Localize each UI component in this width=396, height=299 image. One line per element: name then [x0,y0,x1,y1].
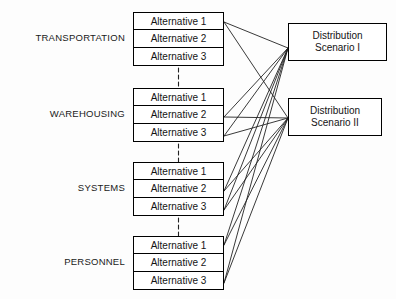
link-p1-s2 [224,118,288,245]
link-y3-s2 [224,118,288,210]
link-t1-s2 [224,22,288,118]
alt-group-personnel: Alternative 1 Alternative 2 Alternative … [133,236,224,290]
link-p3-s1 [224,48,288,283]
link-p3-s2 [224,118,288,283]
link-w2-s1 [224,48,288,117]
alt-cell-systems-1[interactable]: Alternative 1 [134,163,223,180]
distribution-scenario-diagram: TRANSPORTATION WAREHOUSING SYSTEMS PERSO… [0,0,396,299]
category-label-transportation: TRANSPORTATION [5,32,125,43]
alt-cell-personnel-3[interactable]: Alternative 3 [134,272,223,289]
category-label-personnel: PERSONNEL [5,256,125,267]
alt-cell-transportation-1[interactable]: Alternative 1 [134,13,223,30]
link-w3-s2 [224,118,288,136]
link-w2-s2 [224,117,288,118]
link-y2-s2 [224,118,288,191]
alt-cell-warehousing-1[interactable]: Alternative 1 [134,89,223,106]
link-t1-s1 [224,22,288,48]
scenario-label-ii: Distribution Scenario II [310,105,360,130]
category-label-systems: SYSTEMS [5,182,125,193]
alt-cell-systems-2[interactable]: Alternative 2 [134,180,223,197]
link-p1-s1 [224,48,288,245]
scenario-box-i[interactable]: Distribution Scenario I [288,23,387,61]
alt-cell-transportation-3[interactable]: Alternative 3 [134,48,223,65]
link-y3-s1 [224,48,288,210]
alt-cell-transportation-2[interactable]: Alternative 2 [134,30,223,47]
alt-group-transportation: Alternative 1 Alternative 2 Alternative … [133,12,224,66]
alt-cell-systems-3[interactable]: Alternative 3 [134,198,223,215]
alt-cell-personnel-2[interactable]: Alternative 2 [134,254,223,271]
scenario-box-ii[interactable]: Distribution Scenario II [288,98,382,136]
alt-cell-personnel-1[interactable]: Alternative 1 [134,237,223,254]
alt-group-warehousing: Alternative 1 Alternative 2 Alternative … [133,88,224,142]
scenario-label-i: Distribution Scenario I [312,30,362,55]
category-label-warehousing: WAREHOUSING [5,108,125,119]
alt-cell-warehousing-2[interactable]: Alternative 2 [134,106,223,123]
link-y2-s1 [224,48,288,191]
link-w3-s1 [224,48,288,136]
alt-group-systems: Alternative 1 Alternative 2 Alternative … [133,162,224,216]
alt-cell-warehousing-3[interactable]: Alternative 3 [134,124,223,141]
